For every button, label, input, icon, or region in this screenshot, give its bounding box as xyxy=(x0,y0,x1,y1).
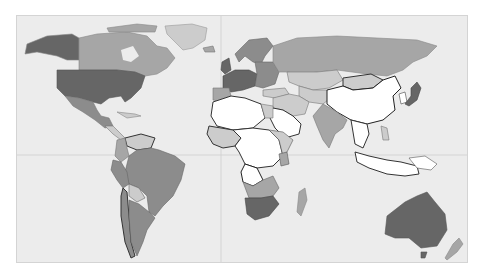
region-mexico xyxy=(65,96,113,128)
region-north-africa xyxy=(211,96,265,130)
region-philippines xyxy=(381,126,389,140)
region-caribbean xyxy=(117,112,141,118)
region-japan xyxy=(405,82,421,106)
region-scandinavia xyxy=(235,38,273,64)
region-kenya xyxy=(279,152,289,166)
region-se-asia xyxy=(351,120,369,148)
region-madagascar xyxy=(297,188,307,216)
region-australia xyxy=(385,192,447,248)
world-choropleth-map xyxy=(17,16,468,263)
region-alaska xyxy=(25,34,79,60)
region-russia xyxy=(273,36,437,76)
region-new-zealand xyxy=(445,238,463,260)
region-indonesia xyxy=(355,152,419,176)
map-regions xyxy=(25,24,463,260)
region-venezuela xyxy=(125,134,155,150)
region-uk xyxy=(221,58,231,74)
region-greenland xyxy=(165,24,207,50)
region-iceland xyxy=(203,46,215,52)
region-kazakhstan xyxy=(287,70,343,90)
region-peru xyxy=(111,160,129,188)
region-south-africa xyxy=(245,196,279,220)
region-tasmania xyxy=(421,252,427,258)
region-arctic-islands xyxy=(107,24,157,32)
map-frame xyxy=(16,15,468,263)
region-korea xyxy=(399,92,407,104)
region-central-america xyxy=(105,126,125,140)
